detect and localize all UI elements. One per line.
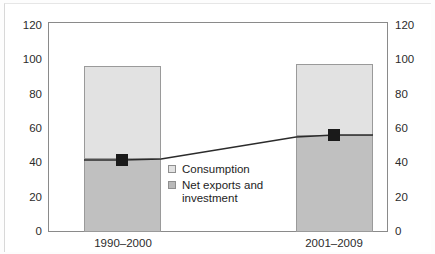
chart-page: 120 100 80 60 40 20 0 120 100 80 60 40 2… (0, 0, 435, 254)
y-axis-left-tick-80: 80 (8, 89, 42, 100)
line-marker-2 (328, 129, 340, 141)
legend-label-consumption: Consumption (182, 163, 250, 176)
x-axis-label-2001-2009: 2001–2009 (293, 237, 375, 249)
y-axis-left-tick-60: 60 (8, 123, 42, 134)
legend-item-consumption: Consumption (168, 163, 263, 176)
y-axis-right-tick-60: 60 (395, 123, 429, 134)
y-axis-right-tick-80: 80 (395, 89, 429, 100)
y-axis-right-tick-0: 0 (395, 226, 429, 237)
x-axis-label-1990-2000: 1990–2000 (82, 237, 164, 249)
legend-label-net-exports: Net exports and investment (182, 179, 263, 205)
y-axis-left-tick-0: 0 (8, 226, 42, 237)
y-axis-left-tick-20: 20 (8, 192, 42, 203)
y-axis-left-tick-40: 40 (8, 157, 42, 168)
y-axis-right-tick-120: 120 (395, 20, 429, 31)
chart-legend: Consumption Net exports and investment (168, 163, 263, 208)
line-marker-1 (116, 154, 128, 166)
y-axis-right-tick-100: 100 (395, 54, 429, 65)
y-axis-left-tick-100: 100 (8, 54, 42, 65)
y-axis-right-tick-40: 40 (395, 157, 429, 168)
y-axis-left-tick-120: 120 (8, 20, 42, 31)
y-axis-right-tick-20: 20 (395, 192, 429, 203)
legend-swatch-net-exports-icon (168, 181, 176, 189)
legend-swatch-consumption-icon (168, 165, 176, 173)
legend-item-net-exports: Net exports and investment (168, 179, 263, 205)
stacked-bar-chart: 120 100 80 60 40 20 0 120 100 80 60 40 2… (0, 0, 435, 254)
